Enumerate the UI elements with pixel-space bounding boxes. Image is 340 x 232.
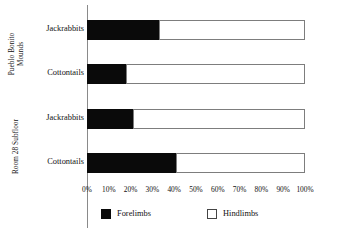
category-label-jackrabbits-room28: Jackrabbits (34, 113, 84, 123)
x-tick-20: 20% (124, 184, 138, 196)
category-label-cottontails-room28: Cottontails (34, 157, 84, 167)
x-tick-90: 90% (276, 184, 290, 196)
x-tick-30: 30% (146, 184, 160, 196)
bar-row (87, 153, 305, 173)
group-label-line1: Pueblo Bonito (8, 33, 16, 76)
category-label-wrap: Cottontails (34, 157, 84, 169)
stacked-bar-chart: Pueblo Bonito Mounds Room 28 Subfloor Ja… (0, 0, 340, 232)
x-tick-100: 100% (296, 184, 313, 196)
bar-segment-hindlimbs (176, 153, 305, 173)
legend-swatch-forelimbs (101, 209, 111, 219)
category-label-cottontails-pueblo: Cottontails (34, 68, 84, 78)
bar-segment-hindlimbs (133, 109, 305, 129)
x-tick-70: 70% (233, 184, 247, 196)
category-label-wrap: Cottontails (34, 68, 84, 80)
group-label-line2: Mounds (17, 33, 26, 76)
bar-row (87, 109, 305, 129)
x-tick-60: 60% (211, 184, 225, 196)
group-label-room-28-subfloor: Room 28 Subfloor (0, 100, 34, 192)
bar-segment-hindlimbs (159, 20, 305, 40)
category-label-wrap: Jackrabbits (34, 24, 84, 36)
legend-label-forelimbs: Forelimbs (117, 209, 151, 219)
chart-legend: Forelimbs Hindlimbs (87, 206, 327, 222)
bar-segment-forelimbs (87, 64, 126, 84)
bar-segment-forelimbs (87, 109, 133, 129)
x-tick-40: 40% (167, 184, 181, 196)
bar-row (87, 64, 305, 84)
category-label-jackrabbits-pueblo: Jackrabbits (34, 24, 84, 34)
legend-item-forelimbs: Forelimbs (101, 206, 151, 222)
legend-item-hindlimbs: Hindlimbs (207, 206, 258, 222)
bar-segment-forelimbs (87, 20, 159, 40)
group-label-line1: Room 28 Subfloor (13, 118, 21, 173)
group-label-pueblo-bonito-mounds: Pueblo Bonito Mounds (0, 8, 34, 100)
x-tick-50: 50% (189, 184, 203, 196)
bar-row (87, 20, 305, 40)
x-axis-tick-labels: 0%10%20%30%40%50%60%70%80%90%100% (0, 184, 340, 196)
x-tick-80: 80% (255, 184, 269, 196)
x-tick-0: 0% (82, 184, 92, 196)
legend-swatch-hindlimbs (207, 209, 217, 219)
legend-label-hindlimbs: Hindlimbs (223, 209, 258, 219)
x-tick-10: 10% (102, 184, 116, 196)
bar-segment-forelimbs (87, 153, 176, 173)
bar-segment-hindlimbs (126, 64, 305, 84)
category-label-wrap: Jackrabbits (34, 113, 84, 125)
